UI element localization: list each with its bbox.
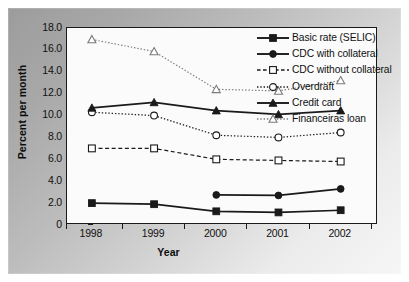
x-tick-mark	[184, 224, 185, 229]
data-point-open-triangle	[88, 35, 96, 42]
chart-legend: Basic rate (SELIC)CDC with collateralCDC…	[256, 30, 392, 127]
data-point-filled-square	[337, 207, 344, 214]
legend-item: Credit card	[256, 95, 392, 111]
legend-label: CDC with collateral	[292, 49, 378, 59]
x-axis-title: Year	[66, 246, 271, 258]
data-point-open-circle	[151, 112, 158, 119]
data-point-open-square	[213, 156, 220, 163]
y-tick-label: 18.0	[28, 22, 62, 33]
legend-item: CDC with collateral	[256, 46, 392, 62]
data-point-open-circle	[213, 132, 220, 139]
data-point-filled-square	[88, 200, 95, 207]
data-point-open-circle	[270, 83, 277, 90]
data-point-filled-square	[270, 35, 277, 42]
data-point-filled-square	[213, 208, 220, 215]
x-tick-label: 2002	[320, 228, 360, 239]
data-point-filled-circle	[275, 192, 282, 199]
y-tick-label: 2.0	[28, 197, 62, 208]
y-tick-label: 8.0	[28, 131, 62, 142]
y-tick-label: 14.0	[28, 65, 62, 76]
data-point-open-circle	[275, 134, 282, 141]
x-axis-ticks: 19981999200020012002	[0, 228, 409, 244]
data-point-open-triangle	[269, 115, 277, 122]
data-point-filled-circle	[213, 192, 220, 199]
legend-key-icon	[256, 63, 290, 77]
legend-label: Basic rate (SELIC)	[292, 33, 375, 43]
data-point-filled-circle	[337, 185, 344, 192]
legend-key-icon	[256, 96, 290, 110]
data-point-filled-square	[275, 209, 282, 216]
data-point-open-square	[88, 145, 95, 152]
y-tick-label: 16.0	[28, 43, 62, 54]
legend-key-icon	[256, 80, 290, 94]
data-point-filled-circle	[270, 51, 277, 58]
data-point-open-square	[270, 67, 277, 74]
x-tick-mark	[371, 224, 372, 229]
x-tick-label: 2001	[257, 228, 297, 239]
data-point-open-square	[151, 145, 158, 152]
y-axis-title: Percent per month	[16, 52, 28, 172]
y-tick-label: 12.0	[28, 87, 62, 98]
x-tick-label: 2000	[195, 228, 235, 239]
legend-key-icon	[256, 47, 290, 61]
data-point-filled-square	[151, 201, 158, 208]
x-tick-mark	[246, 224, 247, 229]
legend-label: Overdraft	[292, 82, 334, 92]
legend-key-icon	[256, 31, 290, 45]
legend-item: CDC without collateral	[256, 62, 392, 78]
legend-item: Financeiras loan	[256, 111, 392, 127]
y-tick-label: 4.0	[28, 175, 62, 186]
data-point-open-circle	[337, 129, 344, 136]
legend-item: Overdraft	[256, 79, 392, 95]
legend-label: CDC without collateral	[292, 65, 392, 75]
data-point-open-square	[275, 157, 282, 164]
chart-screenshot: 02.04.06.08.010.012.014.016.018.0 199819…	[0, 0, 409, 282]
legend-item: Basic rate (SELIC)	[256, 30, 392, 46]
data-point-open-square	[337, 158, 344, 165]
x-tick-label: 1999	[133, 228, 173, 239]
x-tick-mark	[66, 224, 67, 229]
legend-label: Credit card	[292, 98, 341, 108]
y-tick-label: 6.0	[28, 153, 62, 164]
legend-key-icon	[256, 112, 290, 126]
x-tick-mark	[122, 224, 123, 229]
y-tick-label: 10.0	[28, 109, 62, 120]
legend-label: Financeiras loan	[292, 114, 366, 124]
x-tick-label: 1998	[71, 228, 111, 239]
x-tick-mark	[309, 224, 310, 229]
